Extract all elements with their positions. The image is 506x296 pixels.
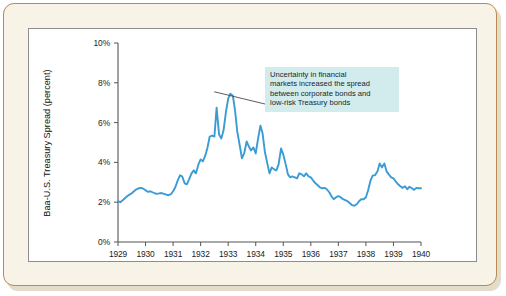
x-axis-ticks xyxy=(118,242,421,246)
x-axis-tick-label: 1937 xyxy=(329,249,347,259)
x-axis-tick-label: 1940 xyxy=(412,249,430,259)
annotation-line: between corporate bonds and xyxy=(270,89,394,98)
x-axis-tick-label: 1938 xyxy=(357,249,375,259)
y-axis-tick-label: 10% xyxy=(29,38,110,48)
annotation-line: markets increased the spread xyxy=(270,79,394,88)
x-axis-tick-label: 1929 xyxy=(109,249,127,259)
y-axis-title: Baa-U.S. Treasury Spread (percent) xyxy=(42,69,52,216)
y-axis-ticks xyxy=(114,43,118,242)
x-axis-tick-label: 1932 xyxy=(192,249,210,259)
annotation-callout: Uncertainty in financial markets increas… xyxy=(265,67,399,112)
y-axis-tick-label: 0% xyxy=(29,237,110,247)
chart-svg xyxy=(29,29,478,263)
annotation-leader-line xyxy=(214,92,265,104)
x-axis-tick-label: 1930 xyxy=(136,249,154,259)
x-axis-tick-label: 1934 xyxy=(247,249,265,259)
annotation-line: low-risk Treasury bonds xyxy=(270,98,394,107)
x-axis-tick-label: 1936 xyxy=(302,249,320,259)
x-axis-tick-label: 1935 xyxy=(274,249,292,259)
chart-plot-area: 0%2%4%6%8%10% 19291930193119321933193419… xyxy=(29,29,478,263)
figure-root: 0%2%4%6%8%10% 19291930193119321933193419… xyxy=(0,0,506,296)
x-axis-tick-label: 1933 xyxy=(219,249,237,259)
plot-panel: 0%2%4%6%8%10% 19291930193119321933193419… xyxy=(28,28,477,262)
x-axis-tick-label: 1939 xyxy=(384,249,402,259)
annotation-line: Uncertainty in financial xyxy=(270,70,394,79)
x-axis-tick-label: 1931 xyxy=(164,249,182,259)
